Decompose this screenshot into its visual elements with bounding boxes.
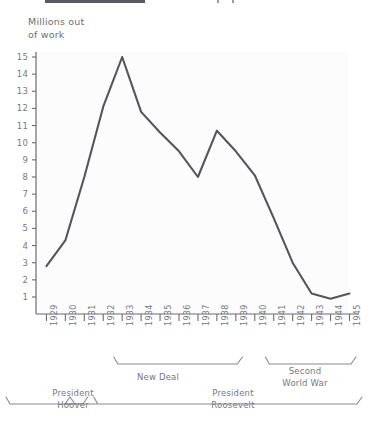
plot-svg bbox=[0, 0, 372, 427]
x-tick-label: 1936 bbox=[183, 304, 192, 326]
x-tick-label: 1944 bbox=[335, 304, 344, 326]
x-tick-label: 1933 bbox=[126, 304, 135, 326]
y-tick-label: 15 bbox=[12, 52, 28, 62]
x-tick-label: 1931 bbox=[88, 304, 97, 326]
band-label-president-roosevelt: President Roosevelt bbox=[197, 388, 269, 411]
x-tick-label: 1940 bbox=[259, 304, 268, 326]
y-tick-label: 2 bbox=[12, 275, 28, 285]
y-tick-label: 11 bbox=[12, 121, 28, 131]
band-label-second-world-war: Second World War bbox=[265, 366, 345, 389]
y-tick-label: 10 bbox=[12, 138, 28, 148]
x-tick-label: 1943 bbox=[316, 304, 325, 326]
x-tick-label: 1941 bbox=[278, 304, 287, 326]
x-tick-label: 1937 bbox=[202, 304, 211, 326]
x-tick-label: 1938 bbox=[221, 304, 230, 326]
band-label-president-hoover: President Hoover bbox=[38, 388, 108, 411]
y-tick-label: 8 bbox=[12, 172, 28, 182]
x-tick-label: 1945 bbox=[353, 304, 362, 326]
y-tick-label: 13 bbox=[12, 86, 28, 96]
bracket bbox=[265, 357, 356, 364]
y-tick-label: 5 bbox=[12, 223, 28, 233]
x-tick-label: 1935 bbox=[164, 304, 173, 326]
x-tick-label: 1930 bbox=[69, 304, 78, 326]
x-tick-label: 1942 bbox=[297, 304, 306, 326]
y-tick-label: 9 bbox=[12, 155, 28, 165]
bracket bbox=[114, 357, 243, 364]
y-tick-label: 14 bbox=[12, 69, 28, 79]
y-tick-label: 4 bbox=[12, 241, 28, 251]
x-tick-label: 1932 bbox=[107, 304, 116, 326]
y-tick-label: 7 bbox=[12, 189, 28, 199]
y-tick-label: 12 bbox=[12, 103, 28, 113]
x-tick-label: 1934 bbox=[145, 304, 154, 326]
band-label-new-deal: New Deal bbox=[118, 372, 198, 384]
x-tick-label: 1929 bbox=[50, 304, 59, 326]
y-tick-label: 3 bbox=[12, 258, 28, 268]
x-tick-label: 1939 bbox=[240, 304, 249, 326]
y-tick-label: 1 bbox=[12, 292, 28, 302]
unemployment-line-chart: Millions out of work 1234567891011121314… bbox=[0, 0, 372, 427]
y-tick-label: 6 bbox=[12, 206, 28, 216]
